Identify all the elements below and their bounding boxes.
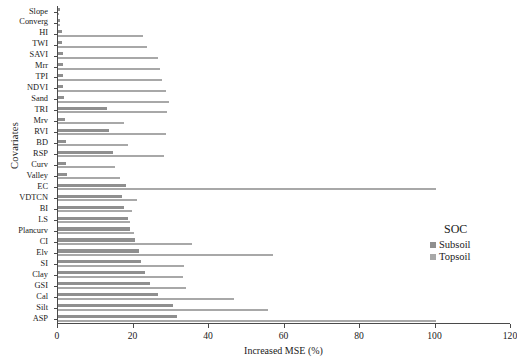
- bar-subsoil-bd: [58, 140, 66, 143]
- bar-subsoil-slope: [58, 8, 60, 11]
- bar-subsoil-ndvi: [58, 85, 63, 88]
- bar-group: Silt: [57, 302, 510, 313]
- y-tick-mark: [54, 297, 58, 298]
- bar-group: Converg: [57, 17, 510, 28]
- bar-group: Clay: [57, 269, 510, 280]
- bar-group: Sand: [57, 94, 510, 105]
- y-tick-mark: [54, 34, 58, 35]
- bar-topsoil-bd: [58, 144, 128, 146]
- bar-topsoil-sand: [58, 101, 169, 103]
- bar-topsoil-converg: [58, 24, 60, 26]
- bar-topsoil-asp: [58, 320, 436, 322]
- y-tick-mark: [54, 110, 58, 111]
- x-tick-label-40: 40: [203, 330, 213, 341]
- bar-subsoil-clay: [58, 271, 145, 274]
- y-tick-label-plancurv: Plancurv: [18, 227, 48, 235]
- y-tick-label-savi: SAVI: [30, 51, 48, 59]
- bar-topsoil-mrr: [58, 68, 160, 70]
- bar-topsoil-rvi: [58, 133, 166, 135]
- y-tick-label-asp: ASP: [33, 315, 48, 323]
- y-tick-label-sand: Sand: [31, 95, 48, 103]
- bar-subsoil-ci: [58, 238, 135, 241]
- bar-topsoil-ls: [58, 221, 130, 223]
- y-tick-mark: [54, 319, 58, 320]
- bar-group: Slope: [57, 6, 510, 17]
- bar-topsoil-ec: [58, 188, 436, 190]
- bar-topsoil-savi: [58, 57, 158, 59]
- bar-subsoil-converg: [58, 19, 60, 22]
- y-tick-label-curv: Curv: [31, 161, 48, 169]
- bar-group: Cal: [57, 291, 510, 302]
- x-tick-mark-0: [57, 324, 58, 328]
- bar-topsoil-plancurv: [58, 232, 134, 234]
- bar-topsoil-twi: [58, 46, 147, 48]
- legend: SOC SubsoilTopsoil: [430, 222, 516, 262]
- y-tick-label-elv: Elv: [36, 249, 48, 257]
- bar-group: TWI: [57, 39, 510, 50]
- bar-subsoil-rsp: [58, 151, 113, 154]
- legend-swatch-topsoil: [430, 254, 436, 260]
- y-tick-label-vdtcn: VDTCN: [19, 194, 48, 202]
- bar-subsoil-tri: [58, 107, 107, 110]
- y-tick-mark: [54, 132, 58, 133]
- y-tick-label-ec: EC: [37, 183, 48, 191]
- bar-subsoil-savi: [58, 52, 63, 55]
- bar-subsoil-hi: [58, 30, 62, 33]
- bar-topsoil-curv: [58, 166, 115, 168]
- y-tick-mark: [54, 264, 58, 265]
- bar-group: EC: [57, 181, 510, 192]
- bar-topsoil-tpi: [58, 79, 162, 81]
- bar-subsoil-vdtcn: [58, 195, 122, 198]
- bar-group: HI: [57, 28, 510, 39]
- y-tick-label-rsp: RSP: [33, 150, 48, 158]
- y-tick-mark: [54, 231, 58, 232]
- bar-group: Mrv: [57, 116, 510, 127]
- bar-subsoil-asp: [58, 315, 177, 318]
- bar-subsoil-elv: [58, 249, 139, 252]
- bar-subsoil-silt: [58, 304, 173, 307]
- bar-subsoil-cal: [58, 293, 158, 296]
- bar-subsoil-valley: [58, 173, 67, 176]
- x-tick-label-60: 60: [279, 330, 289, 341]
- y-tick-mark: [54, 67, 58, 68]
- y-tick-mark: [54, 143, 58, 144]
- bar-group: SAVI: [57, 50, 510, 61]
- y-tick-mark: [54, 99, 58, 100]
- bar-group: Curv: [57, 160, 510, 171]
- legend-label-topsoil: Topsoil: [439, 252, 470, 263]
- bar-subsoil-sand: [58, 96, 64, 99]
- bar-group: GSI: [57, 280, 510, 291]
- x-tick-mark-80: [359, 324, 360, 328]
- bar-subsoil-bi: [58, 206, 124, 209]
- y-tick-label-si: SI: [41, 260, 48, 268]
- y-tick-mark: [54, 198, 58, 199]
- bar-topsoil-ndvi: [58, 90, 166, 92]
- y-tick-label-tri: TRI: [35, 106, 49, 114]
- x-tick-label-0: 0: [55, 330, 60, 341]
- y-tick-label-bd: BD: [36, 139, 48, 147]
- bar-group: Mrr: [57, 61, 510, 72]
- bar-topsoil-hi: [58, 35, 143, 37]
- y-tick-mark: [54, 56, 58, 57]
- y-tick-label-ls: LS: [38, 216, 48, 224]
- bar-topsoil-silt: [58, 309, 268, 311]
- y-tick-label-mrv: Mrv: [34, 117, 48, 125]
- x-tick-mark-20: [133, 324, 134, 328]
- y-tick-label-hi: HI: [39, 29, 48, 37]
- bar-topsoil-tri: [58, 111, 167, 113]
- y-tick-label-rvi: RVI: [34, 128, 48, 136]
- bar-group: VDTCN: [57, 192, 510, 203]
- bar-topsoil-cal: [58, 298, 234, 300]
- y-tick-mark: [54, 275, 58, 276]
- y-tick-mark: [54, 308, 58, 309]
- bar-subsoil-si: [58, 260, 141, 263]
- x-tick-label-100: 100: [427, 330, 441, 341]
- x-axis-title: Increased MSE (%): [57, 345, 510, 356]
- bar-topsoil-si: [58, 265, 184, 267]
- bar-topsoil-ci: [58, 243, 192, 245]
- y-tick-mark: [54, 12, 58, 13]
- bar-subsoil-ls: [58, 217, 128, 220]
- x-tick-label-80: 80: [354, 330, 364, 341]
- y-tick-mark: [54, 45, 58, 46]
- y-tick-mark: [54, 23, 58, 24]
